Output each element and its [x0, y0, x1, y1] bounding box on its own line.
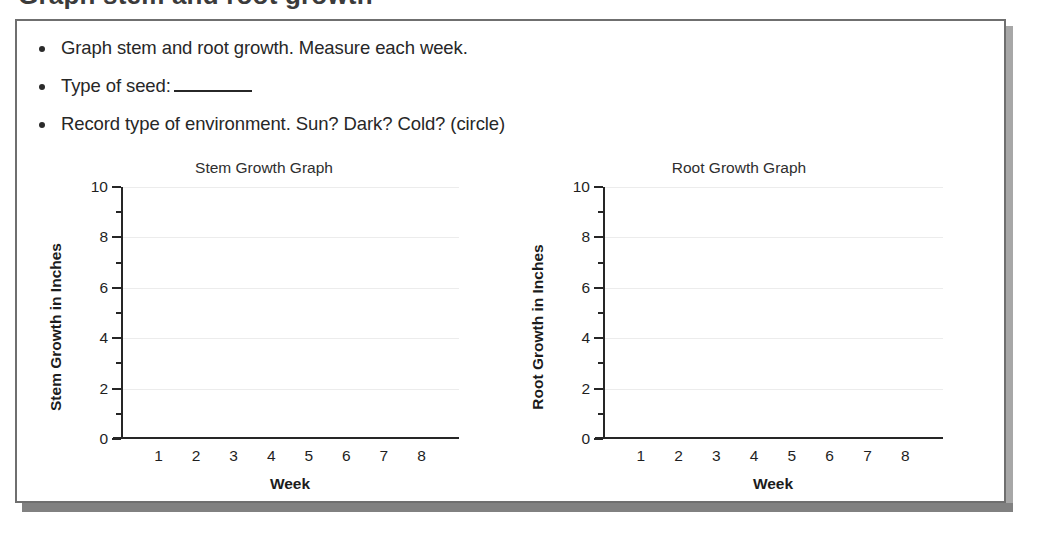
instruction-text: Type of seed: [61, 75, 171, 97]
x-axis-line [113, 437, 459, 439]
y-tick-label: 4 [581, 329, 590, 347]
bullet-icon [39, 40, 61, 57]
gridline [121, 187, 459, 188]
plot-area: 108642012345678 Week [121, 187, 459, 439]
seed-type-blank-field[interactable] [174, 90, 252, 92]
y-tick-major [112, 287, 121, 289]
y-tick-label: 8 [581, 228, 590, 246]
y-tick-label: 8 [99, 228, 108, 246]
gridline [603, 288, 943, 289]
root-growth-chart: Root Growth Graph Root Growth in Inches … [509, 159, 979, 499]
instruction-text: Graph stem and root growth. Measure each… [61, 37, 468, 59]
x-tick-label: 6 [342, 447, 351, 465]
y-tick-label: 10 [573, 178, 590, 196]
y-tick-major [594, 186, 603, 188]
list-item: Record type of environment. Sun? Dark? C… [39, 113, 979, 135]
y-tick-major [112, 186, 121, 188]
x-axis-line [595, 437, 943, 439]
y-tick-label: 0 [99, 430, 108, 448]
y-tick-label: 2 [581, 380, 590, 398]
y-tick-label: 6 [99, 279, 108, 297]
y-tick-major [594, 337, 603, 339]
y-axis-title: Root Growth in Inches [529, 222, 547, 432]
y-tick-label: 10 [91, 178, 108, 196]
x-tick-label: 2 [674, 447, 683, 465]
y-tick-major [112, 337, 121, 339]
panel-shadow-bottom [22, 503, 1013, 512]
x-tick-label: 4 [750, 447, 759, 465]
y-axis-line [121, 187, 123, 439]
y-tick-major [112, 236, 121, 238]
x-tick-label: 8 [417, 447, 426, 465]
x-tick-label: 8 [901, 447, 910, 465]
x-tick-label: 7 [863, 447, 872, 465]
cut-off-heading: Graph stem and root growth [0, 0, 1056, 15]
x-axis-title: Week [603, 475, 943, 493]
x-tick-label: 1 [154, 447, 163, 465]
gridline [121, 338, 459, 339]
y-axis-line [603, 187, 605, 439]
worksheet-panel: Graph stem and root growth. Measure each… [15, 19, 1006, 503]
list-item: Graph stem and root growth. Measure each… [39, 37, 979, 59]
plot-area: 108642012345678 Week [603, 187, 943, 439]
y-tick-label: 2 [99, 380, 108, 398]
gridline [603, 187, 943, 188]
panel-shadow-right [1006, 26, 1013, 503]
stem-growth-chart: Stem Growth Graph Stem Growth in Inches … [39, 159, 509, 499]
instructions-list: Graph stem and root growth. Measure each… [39, 37, 979, 151]
x-tick-label: 2 [192, 447, 201, 465]
y-tick-major [594, 388, 603, 390]
x-axis-title: Week [121, 475, 459, 493]
chart-title: Root Growth Graph [524, 159, 954, 177]
y-tick-label: 0 [581, 430, 590, 448]
instruction-text: Record type of environment. Sun? Dark? C… [61, 113, 505, 135]
x-tick-label: 5 [304, 447, 313, 465]
gridline [121, 288, 459, 289]
y-tick-label: 6 [581, 279, 590, 297]
list-item: Type of seed: [39, 75, 979, 97]
y-tick-label: 4 [99, 329, 108, 347]
x-tick-label: 3 [712, 447, 721, 465]
x-tick-label: 3 [229, 447, 238, 465]
gridline [603, 389, 943, 390]
x-tick-label: 7 [380, 447, 389, 465]
y-tick-major [112, 388, 121, 390]
x-tick-label: 5 [788, 447, 797, 465]
gridline [603, 237, 943, 238]
y-tick-major [594, 287, 603, 289]
y-tick-major [594, 236, 603, 238]
x-tick-label: 1 [636, 447, 645, 465]
x-tick-label: 6 [825, 447, 834, 465]
gridline [121, 389, 459, 390]
cut-off-heading-text: Graph stem and root growth [18, 0, 373, 11]
y-axis-title: Stem Growth in Inches [47, 222, 65, 432]
bullet-icon [39, 78, 61, 95]
chart-title: Stem Growth Graph [54, 159, 474, 177]
charts-row: Stem Growth Graph Stem Growth in Inches … [17, 159, 1004, 499]
x-tick-label: 4 [267, 447, 276, 465]
bullet-icon [39, 116, 61, 133]
gridline [121, 237, 459, 238]
gridline [603, 338, 943, 339]
